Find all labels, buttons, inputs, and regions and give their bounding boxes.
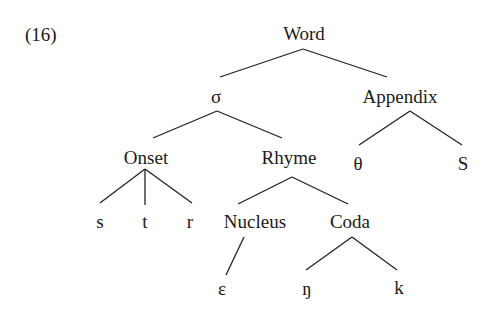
node-appendix-theta: θ (353, 154, 362, 173)
edge-rhyme-nucleus (238, 177, 292, 204)
edge-coda-eng (306, 237, 352, 270)
node-syllable: σ (211, 87, 221, 106)
node-appendix: Appendix (363, 87, 438, 106)
node-onset-r: r (187, 212, 193, 231)
node-coda-k: k (394, 278, 404, 297)
edge-coda-k (352, 237, 397, 270)
node-coda: Coda (330, 212, 370, 231)
edge-word-appendix (303, 49, 387, 77)
node-coda-eng: ŋ (302, 279, 311, 298)
edge-rhyme-coda (292, 177, 348, 204)
edge-syllable-onset (153, 111, 217, 138)
node-nucleus-epsilon: ε (218, 279, 226, 298)
node-nucleus: Nucleus (224, 212, 286, 231)
edge-word-syllable (220, 49, 303, 77)
node-onset: Onset (124, 148, 168, 167)
node-rhyme: Rhyme (262, 148, 317, 167)
edge-appendix-theta (359, 111, 410, 145)
node-appendix-s: S (458, 154, 469, 173)
edge-syllable-rhyme (217, 111, 282, 138)
node-onset-s: s (96, 212, 103, 231)
tree-edges (0, 0, 494, 312)
edge-nucleus-epsilon (226, 237, 244, 275)
node-onset-t: t (142, 212, 147, 231)
edge-appendix-s (410, 111, 462, 145)
node-word: Word (283, 24, 325, 43)
edge-onset-s (100, 169, 145, 203)
edge-onset-r (145, 169, 192, 203)
